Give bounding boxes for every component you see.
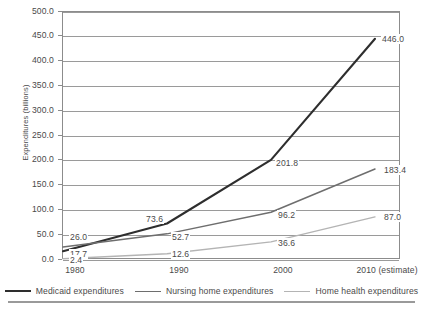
legend-item[interactable]: Medicaid expenditures	[5, 286, 124, 296]
y-axis-tick-label: 100.0	[2, 204, 54, 214]
data-point-label: 446.0	[381, 34, 405, 44]
y-axis-tick-label: 500.0	[2, 6, 54, 16]
data-point-label: 52.7	[171, 232, 190, 242]
legend-item[interactable]: Home health expenditures	[284, 286, 418, 296]
legend-label: Medicaid expenditures	[36, 286, 124, 296]
legend-line-swatch	[284, 291, 310, 292]
chart-figure: Expenditures (billions) 0.050.0100.0150.…	[0, 0, 423, 309]
data-point-label: 36.6	[277, 238, 296, 248]
y-axis-tick-label: 50.0	[2, 229, 54, 239]
data-point-label: 201.8	[275, 158, 299, 168]
legend-item[interactable]: Nursing home expenditures	[135, 286, 274, 296]
y-axis-tick-label: 200.0	[2, 154, 54, 164]
y-axis-tick-label: 400.0	[2, 55, 54, 65]
y-axis-tick-label: 350.0	[2, 80, 54, 90]
legend-label: Home health expenditures	[315, 286, 418, 296]
data-point-label: 26.0	[69, 232, 88, 242]
y-axis-tick-label: 300.0	[2, 105, 54, 115]
data-point-label: 2.4	[69, 255, 83, 265]
x-axis-tick-label: 2000	[273, 265, 293, 275]
data-point-label: 73.6	[145, 214, 164, 224]
chart-legend: Medicaid expendituresNursing home expend…	[0, 283, 423, 299]
legend-line-swatch	[135, 291, 161, 292]
x-axis-tick-label: 1980	[65, 265, 85, 275]
x-axis-tick-label: 1990	[169, 265, 189, 275]
series-line	[63, 169, 375, 247]
y-axis-tick-label: 450.0	[2, 30, 54, 40]
data-point-label: 183.4	[383, 165, 407, 175]
bottom-rule	[8, 301, 415, 303]
data-point-label: 87.0	[383, 212, 402, 222]
data-point-label: 96.2	[277, 210, 296, 220]
series-lines	[63, 12, 401, 260]
legend-line-swatch	[5, 290, 31, 292]
legend-label: Nursing home expenditures	[166, 286, 274, 296]
y-axis-tick-label: 250.0	[2, 130, 54, 140]
x-axis-tick-label: 2010 (estimate)	[356, 265, 417, 275]
plot-area: 17.773.6201.8446.026.052.796.2183.42.412…	[62, 11, 400, 259]
y-axis-tick-label: 150.0	[2, 179, 54, 189]
series-line	[63, 39, 375, 251]
y-axis-tick-label: 0.0	[2, 254, 54, 264]
data-point-label: 12.6	[171, 249, 190, 259]
